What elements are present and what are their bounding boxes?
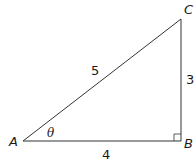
right-angle-marker-icon — [174, 134, 181, 141]
side-ac-hypotenuse — [23, 19, 181, 141]
right-triangle-diagram: A B C 5 3 4 θ — [0, 0, 196, 164]
vertex-label-b: B — [184, 137, 193, 150]
side-ab-length-label: 4 — [102, 148, 110, 161]
vertex-label-c: C — [184, 3, 193, 16]
triangle-drawing — [0, 0, 196, 164]
vertex-label-a: A — [9, 135, 18, 148]
side-bc-length-label: 3 — [186, 73, 194, 86]
hypotenuse-length-label: 5 — [91, 64, 99, 77]
angle-theta-label: θ — [47, 127, 54, 139]
